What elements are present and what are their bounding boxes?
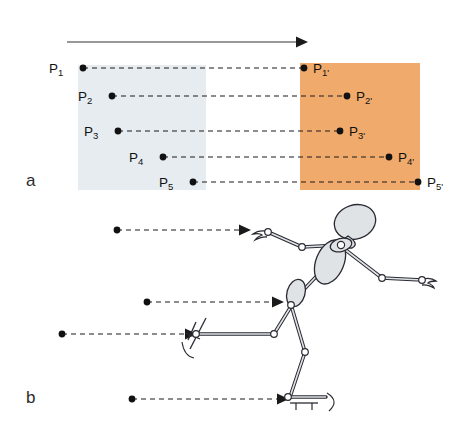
point-p5-prime [415,179,422,186]
point-label-prime-1: P1' [313,62,329,76]
point-label-3: P3 [84,125,98,139]
joint-knee-back [302,349,309,356]
joint-elbow-back [379,275,386,282]
point-p2-prime [344,93,351,100]
point-label-1: P1 [49,62,63,76]
point-p2 [109,93,116,100]
point-label-prime-4: P4' [398,151,414,165]
point-p4 [160,154,167,161]
point-p3 [115,128,122,135]
point-label-prime-5: P5' [427,176,443,190]
joint-ankle-front [193,331,200,338]
point-p4-prime [386,154,393,161]
joint-ankle-back [285,394,292,401]
joint-wrist-front [265,229,272,236]
point-label-5: P5 [159,176,173,190]
point-label-prime-3: P3' [349,125,365,139]
joint-hip [288,302,295,309]
skater-displacement-figure [0,0,466,431]
joint-knee-front [271,331,278,338]
joint-wrist-back [419,277,426,284]
point-p5 [190,179,197,186]
panel-label-b: b [26,389,35,406]
point-p3-prime [337,128,344,135]
point-p1-prime [301,65,308,72]
point-label-prime-2: P2' [356,90,372,104]
point-label-4: P4 [129,151,143,165]
panel-label-a: a [26,172,35,189]
point-label-2: P2 [78,90,92,104]
joint-elbow-front [299,244,306,251]
point-p1 [80,65,87,72]
